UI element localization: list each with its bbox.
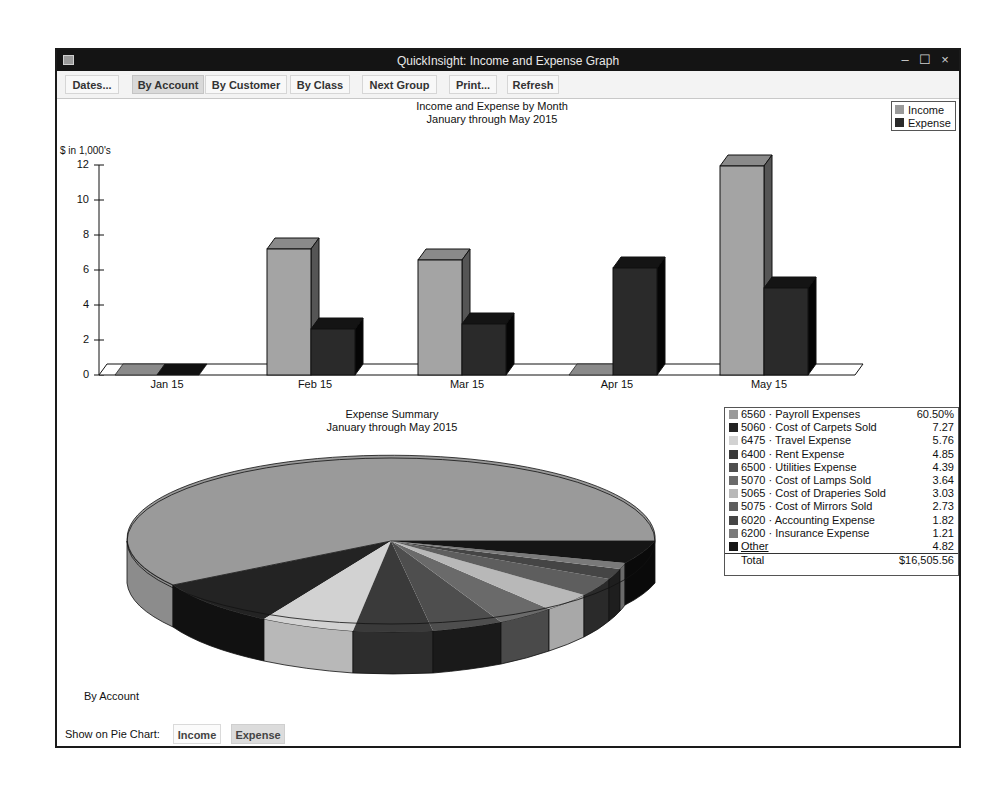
pie-legend-value: 5.76 xyxy=(933,434,954,447)
pie-legend-total: Total $16,505.56 xyxy=(725,553,958,567)
pie-legend-label: 5060 · Cost of Carpets Sold xyxy=(741,421,877,434)
bar-chart xyxy=(57,50,963,410)
accounting-swatch xyxy=(729,516,738,525)
payroll-swatch xyxy=(729,410,738,419)
y-tick: 10 xyxy=(69,193,89,205)
pie-legend-value: 3.03 xyxy=(933,487,954,500)
lamps-swatch xyxy=(729,476,738,485)
carpets-swatch xyxy=(729,423,738,432)
pie-legend-label: 5065 · Cost of Draperies Sold xyxy=(741,487,886,500)
x-tick-feb: Feb 15 xyxy=(285,378,345,390)
y-tick: 2 xyxy=(69,333,89,345)
y-tick: 0 xyxy=(69,368,89,380)
y-tick: 4 xyxy=(69,298,89,310)
pie-legend-row[interactable]: 6500 · Utilities Expense 4.39 xyxy=(725,461,958,474)
y-tick: 6 xyxy=(69,263,89,275)
mirrors-swatch xyxy=(729,502,738,511)
pie-legend-label: 6475 · Travel Expense xyxy=(741,434,851,447)
pie-legend-row-other[interactable]: Other 4.82 xyxy=(725,540,958,553)
x-tick-may: May 15 xyxy=(739,378,799,390)
show-on-pie-label: Show on Pie Chart: xyxy=(65,728,160,740)
other-swatch xyxy=(729,542,738,551)
expense-pie-button[interactable]: Expense xyxy=(231,724,285,744)
pie-legend-label: 6560 · Payroll Expenses xyxy=(741,408,860,421)
pie-legend-row[interactable]: 6020 · Accounting Expense 1.82 xyxy=(725,514,958,527)
pie-legend-label: 6400 · Rent Expense xyxy=(741,448,844,461)
pie-legend-value: 3.64 xyxy=(933,474,954,487)
pie-legend-value: 1.21 xyxy=(933,527,954,540)
pie-legend-value: 1.82 xyxy=(933,514,954,527)
y-tick: 8 xyxy=(69,228,89,240)
other-link[interactable]: Other xyxy=(741,540,769,553)
pie-legend-row[interactable]: 6475 · Travel Expense 5.76 xyxy=(725,434,958,447)
total-label: Total xyxy=(741,554,764,567)
pie-legend-value: 7.27 xyxy=(933,421,954,434)
x-tick-jan: Jan 15 xyxy=(137,378,197,390)
draperies-swatch xyxy=(729,489,738,498)
pie-legend-value: 4.85 xyxy=(933,448,954,461)
pie-legend-label: 6500 · Utilities Expense xyxy=(741,461,857,474)
total-value: $16,505.56 xyxy=(899,554,954,567)
pie-legend: 6560 · Payroll Expenses 60.50% 5060 · Co… xyxy=(724,407,959,576)
group-by-label: By Account xyxy=(84,690,139,702)
pie-legend-row[interactable]: 6560 · Payroll Expenses 60.50% xyxy=(725,408,958,421)
pie-legend-row[interactable]: 5060 · Cost of Carpets Sold 7.27 xyxy=(725,421,958,434)
pie-legend-value: 2.73 xyxy=(933,500,954,513)
pie-chart-title-text: Expense Summary xyxy=(277,408,507,421)
pie-legend-row[interactable]: 5065 · Cost of Draperies Sold 3.03 xyxy=(725,487,958,500)
quickinsight-window: QuickInsight: Income and Expense Graph –… xyxy=(55,48,961,748)
x-tick-apr: Apr 15 xyxy=(587,378,647,390)
pie-chart-title: Expense Summary January through May 2015 xyxy=(277,408,507,434)
pie-legend-label: 6200 · Insurance Expense xyxy=(741,527,869,540)
pie-legend-label: 5075 · Cost of Mirrors Sold xyxy=(741,500,872,513)
y-tick: 12 xyxy=(69,158,89,170)
pie-legend-row[interactable]: 6200 · Insurance Expense 1.21 xyxy=(725,527,958,540)
pie-chart-subtitle: January through May 2015 xyxy=(277,421,507,434)
travel-swatch xyxy=(729,436,738,445)
pie-legend-value: 60.50% xyxy=(917,408,954,421)
pie-legend-row[interactable]: 5070 · Cost of Lamps Sold 3.64 xyxy=(725,474,958,487)
pie-legend-value: 4.82 xyxy=(933,540,954,553)
income-pie-button[interactable]: Income xyxy=(173,724,221,744)
pie-legend-row[interactable]: 6400 · Rent Expense 4.85 xyxy=(725,448,958,461)
x-tick-mar: Mar 15 xyxy=(437,378,497,390)
pie-legend-row[interactable]: 5075 · Cost of Mirrors Sold 2.73 xyxy=(725,500,958,513)
pie-legend-label: 5070 · Cost of Lamps Sold xyxy=(741,474,871,487)
pie-legend-value: 4.39 xyxy=(933,461,954,474)
pie-chart xyxy=(117,445,667,685)
utilities-swatch xyxy=(729,463,738,472)
pie-legend-label: 6020 · Accounting Expense xyxy=(741,514,875,527)
insurance-swatch xyxy=(729,529,738,538)
rent-swatch xyxy=(729,450,738,459)
